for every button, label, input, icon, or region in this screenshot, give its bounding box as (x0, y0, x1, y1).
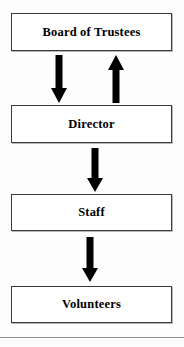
bottom-divider-rule (0, 337, 184, 338)
arrow-up-director-to-board (107, 55, 125, 103)
node-volunteers: Volunteers (11, 286, 172, 323)
node-label-staff: Staff (78, 206, 105, 219)
org-chart-diagram: Board of Trustees Director Staff Volunte… (0, 0, 184, 347)
arrow-down-board-to-director (50, 55, 68, 103)
node-label-director: Director (68, 118, 114, 131)
node-label-volunteers: Volunteers (62, 298, 121, 311)
node-staff: Staff (11, 194, 172, 231)
node-label-board-of-trustees: Board of Trustees (42, 26, 140, 39)
node-director: Director (11, 105, 172, 143)
arrow-down-director-to-staff (86, 148, 104, 192)
arrow-down-staff-to-volunteers (81, 237, 99, 282)
node-board-of-trustees: Board of Trustees (11, 13, 172, 51)
